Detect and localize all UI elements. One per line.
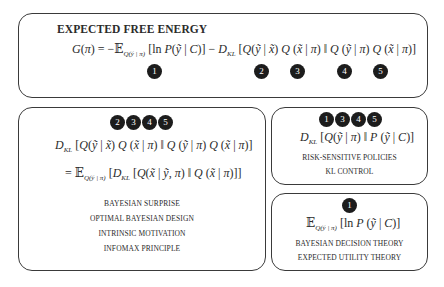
risk-equation: DKL [Q(ỹ | π) ‖ P (ỹ | C)] (300, 130, 414, 146)
main-equation: G(π) = −𝔼Q(ỹ | π) [ln P(ỹ | C)] − DKL [Q… (72, 42, 416, 58)
label-bayesian-surprise: BAYESIAN SURPRISE (19, 199, 265, 208)
utility-equation: 𝔼Q(ỹ | π) [ln P (ỹ | C)] (306, 216, 400, 232)
label-expected-utility-theory: EXPECTED UTILITY THEORY (272, 253, 427, 262)
badge-group: 2 3 4 5 (110, 115, 173, 130)
badge-5: 5 (367, 112, 382, 127)
badge-group: 1 3 4 5 (319, 112, 382, 127)
kl-equation: DKL [Q(ỹ | x̃) Q (x̃ | π) ‖ Q (ỹ | π) Q … (55, 138, 253, 154)
label-bayesian-decision-theory: BAYESIAN DECISION THEORY (272, 239, 427, 248)
badge-3: 3 (290, 64, 305, 79)
badge-3: 3 (126, 115, 141, 130)
badge-4: 4 (337, 64, 352, 79)
badge-1: 1 (342, 198, 357, 213)
label-infomax-principle: INFOMAX PRINCIPLE (19, 244, 265, 253)
label-risk-sensitive-policies: RISK-SENSITIVE POLICIES (272, 153, 427, 162)
expected-utility-panel: 1 𝔼Q(ỹ | π) [ln P (ỹ | C)] BAYESIAN DECI… (271, 193, 428, 271)
information-gain-panel: 2 3 4 5 DKL [Q(ỹ | x̃) Q (x̃ | π) ‖ Q (ỹ… (18, 107, 266, 271)
label-kl-control: KL CONTROL (272, 167, 427, 176)
badge-5: 5 (373, 64, 388, 79)
badge-1: 1 (147, 64, 162, 79)
badge-2: 2 (254, 64, 269, 79)
label-optimal-bayesian-design: OPTIMAL BAYESIAN DESIGN (19, 214, 265, 223)
badge-1: 1 (319, 112, 334, 127)
expected-kl-equation: = 𝔼Q(ỹ | π) [DKL [Q(x̃ | ỹ, π) ‖ Q (x̃ |… (65, 166, 241, 182)
badge-3: 3 (335, 112, 350, 127)
badge-2: 2 (110, 115, 125, 130)
panel-title: EXPECTED FREE ENERGY (57, 23, 207, 35)
risk-panel: 1 3 4 5 DKL [Q(ỹ | π) ‖ P (ỹ | C)] RISK-… (271, 107, 428, 185)
badge-4: 4 (142, 115, 157, 130)
badge-4: 4 (351, 112, 366, 127)
label-intrinsic-motivation: INTRINSIC MOTIVATION (19, 229, 265, 238)
badge-5: 5 (158, 115, 173, 130)
